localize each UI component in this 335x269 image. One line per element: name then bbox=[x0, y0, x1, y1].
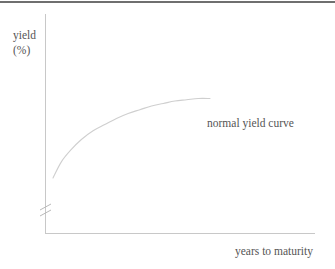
figure-canvas: yield (%) normal yield curve years to ma… bbox=[0, 0, 335, 269]
x-axis-label: years to maturity bbox=[235, 244, 313, 259]
y-axis-label-line2: (%) bbox=[13, 43, 36, 58]
y-axis-label-line1: yield bbox=[13, 28, 36, 43]
y-axis-label: yield (%) bbox=[13, 28, 36, 58]
plot-area bbox=[0, 0, 335, 269]
normal-yield-curve-path bbox=[53, 98, 210, 178]
curve-annotation-label: normal yield curve bbox=[207, 116, 294, 131]
